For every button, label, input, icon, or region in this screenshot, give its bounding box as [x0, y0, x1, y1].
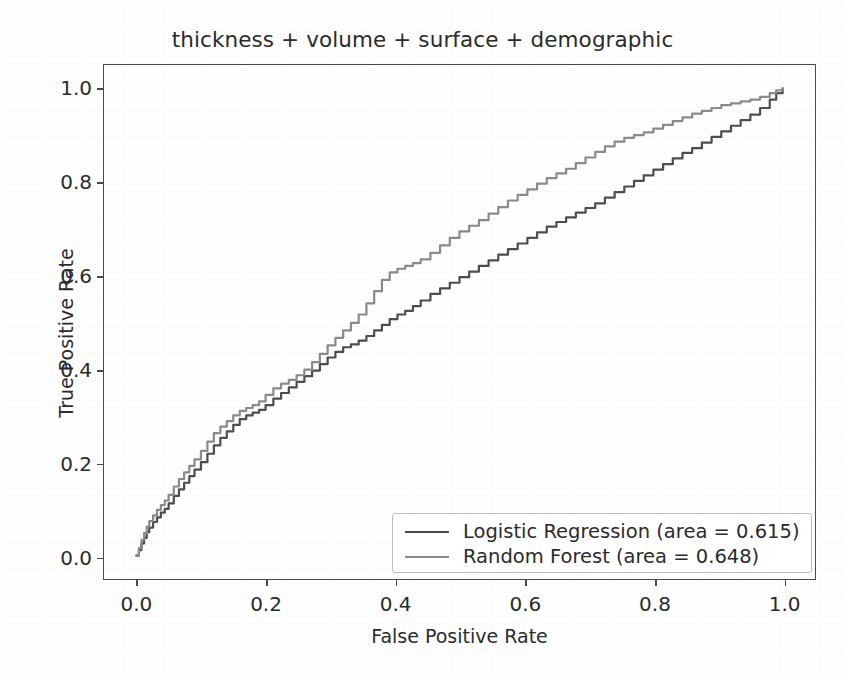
- x-tick-label: 1.0: [769, 592, 801, 616]
- y-axis-title: True Positive Rate: [55, 183, 77, 483]
- x-tick-label: 0.2: [250, 592, 282, 616]
- legend-item: Logistic Regression (area = 0.615): [405, 519, 801, 544]
- legend-label: Logistic Regression (area = 0.615): [463, 520, 800, 543]
- x-axis-title: False Positive Rate: [103, 625, 816, 647]
- x-tick-mark: [266, 579, 268, 586]
- y-tick-mark: [97, 558, 104, 560]
- plot-area: 0.00.20.40.60.81.00.00.20.40.60.81.0: [103, 64, 816, 580]
- legend-label: Random Forest (area = 0.648): [463, 545, 759, 568]
- legend-item: Random Forest (area = 0.648): [405, 544, 801, 569]
- legend: Logistic Regression (area = 0.615) Rando…: [392, 513, 812, 573]
- legend-line-swatch: [405, 531, 449, 533]
- x-tick-mark: [396, 579, 398, 586]
- x-tick-mark: [785, 579, 787, 586]
- y-tick-mark: [97, 88, 104, 90]
- x-tick-label: 0.8: [639, 592, 671, 616]
- y-tick-mark: [97, 276, 104, 278]
- x-tick-mark: [655, 579, 657, 586]
- x-tick-mark: [525, 579, 527, 586]
- y-tick-mark: [97, 370, 104, 372]
- y-tick-label: 0.0: [60, 546, 92, 570]
- legend-line-swatch: [405, 556, 449, 558]
- roc-curves: [104, 65, 815, 579]
- x-tick-label: 0.4: [380, 592, 412, 616]
- chart-title: thickness + volume + surface + demograph…: [0, 27, 845, 52]
- x-tick-mark: [136, 579, 138, 586]
- x-tick-label: 0.6: [509, 592, 541, 616]
- x-tick-label: 0.0: [121, 592, 153, 616]
- roc-curve-random-forest: [136, 88, 782, 555]
- y-tick-mark: [97, 464, 104, 466]
- y-tick-label: 1.0: [60, 76, 92, 100]
- y-tick-mark: [97, 182, 104, 184]
- roc-curve-logistic-regression: [136, 88, 782, 555]
- roc-figure: thickness + volume + surface + demograph…: [0, 0, 845, 678]
